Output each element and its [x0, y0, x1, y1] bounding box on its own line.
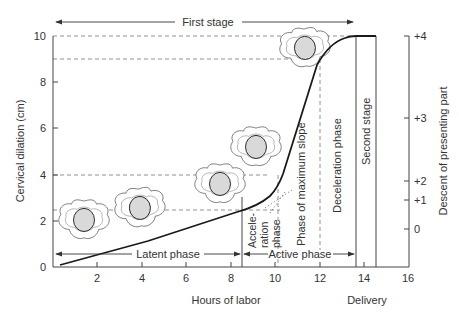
- svg-text:+4: +4: [414, 30, 427, 42]
- y-tick-labels: 0 2 4 6 8 10: [34, 30, 46, 273]
- y2-tick-labels: +4 +3 +2 +1 0: [414, 30, 427, 235]
- first-stage-label: First stage: [182, 16, 233, 28]
- svg-text:0: 0: [40, 261, 46, 273]
- svg-text:4: 4: [40, 169, 46, 181]
- svg-text:phase: phase: [270, 219, 282, 248]
- svg-text:ration: ration: [258, 222, 270, 248]
- svg-text:Accele-: Accele-: [246, 212, 258, 248]
- svg-text:4: 4: [139, 272, 145, 284]
- fetal-head-station-4-icon: [231, 127, 281, 166]
- max-slope-label: Phase of maximum slope: [295, 123, 307, 247]
- reference-lines: [53, 36, 356, 267]
- fetal-head-station-3-icon: [195, 164, 245, 203]
- second-stage-label: Second stage: [360, 98, 372, 165]
- dilation-curve: [60, 36, 376, 265]
- svg-text:+2: +2: [414, 175, 427, 187]
- svg-text:+1: +1: [414, 194, 427, 206]
- x-axis-title: Hours of labor: [191, 294, 260, 306]
- fetal-head-station-1-icon: [59, 200, 109, 239]
- svg-text:8: 8: [40, 76, 46, 88]
- svg-text:2: 2: [40, 215, 46, 227]
- deceleration-phase-label: Deceleration phase: [331, 118, 343, 213]
- svg-text:16: 16: [402, 272, 414, 284]
- svg-text:6: 6: [40, 122, 46, 134]
- svg-text:+3: +3: [414, 112, 427, 124]
- fetal-head-station-2-icon: [113, 186, 167, 229]
- y-axis-title: Cervical dilation (cm): [14, 100, 26, 203]
- svg-text:0: 0: [414, 223, 420, 235]
- acceleration-phase-label: Accele- ration phase: [246, 212, 282, 248]
- x-tick-labels: 2 4 6 8 10 12 14 16: [94, 272, 414, 284]
- svg-text:10: 10: [269, 272, 281, 284]
- fetal-head-illustrations: [59, 27, 331, 239]
- svg-text:12: 12: [314, 272, 326, 284]
- svg-text:2: 2: [94, 272, 100, 284]
- labor-curve-chart: First stage Latent phase Active phase Ac…: [0, 0, 459, 316]
- svg-text:6: 6: [183, 272, 189, 284]
- delivery-label: Delivery: [347, 294, 387, 306]
- svg-text:10: 10: [34, 30, 46, 42]
- active-phase-label: Active phase: [269, 248, 332, 260]
- tangent-dotted-lines: [265, 190, 292, 213]
- svg-text:14: 14: [358, 272, 370, 284]
- latent-phase-label: Latent phase: [136, 248, 200, 260]
- svg-text:8: 8: [228, 272, 234, 284]
- fetal-head-station-5-icon: [279, 27, 331, 68]
- y2-axis-title: Descent of presenting part: [437, 86, 449, 215]
